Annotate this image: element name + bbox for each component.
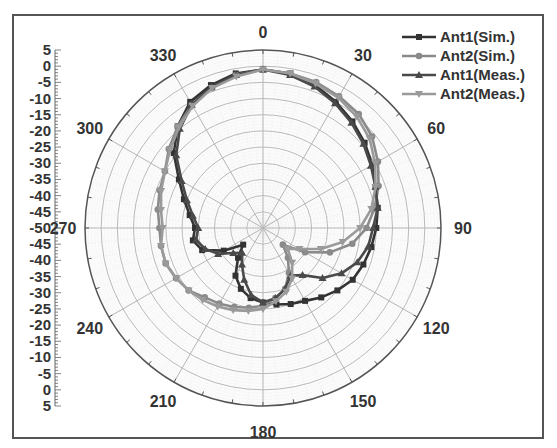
radial-tick-label: -35 xyxy=(29,268,51,285)
radial-tick-label: -35 xyxy=(29,170,51,187)
legend-item: Ant1(Meas.) xyxy=(402,66,525,83)
radial-tick-label: -40 xyxy=(29,187,51,204)
radial-tick-label: 0 xyxy=(43,381,51,398)
radial-tick-label: 5 xyxy=(43,397,51,414)
angle-label: 120 xyxy=(423,320,450,337)
radial-tick-label: -50 xyxy=(29,219,51,236)
polar-grid xyxy=(85,50,441,406)
angle-label: 0 xyxy=(259,24,268,41)
radial-tick-label: -15 xyxy=(29,106,51,123)
polar-chart: 50-5-10-15-20-25-30-35-40-45-50-45-40-35… xyxy=(0,0,557,448)
radial-tick-label: -30 xyxy=(29,284,51,301)
angle-label: 90 xyxy=(454,220,472,237)
radial-tick-label: -20 xyxy=(29,316,51,333)
angle-label: 30 xyxy=(354,47,372,64)
radial-tick-label: -5 xyxy=(38,365,51,382)
angle-label: 330 xyxy=(150,47,177,64)
angle-label: 300 xyxy=(76,120,103,137)
angle-label: 240 xyxy=(76,320,103,337)
radial-tick-label: 5 xyxy=(43,41,51,58)
legend: Ant1(Sim.)Ant2(Sim.)Ant1(Meas.)Ant2(Meas… xyxy=(402,28,525,102)
radial-tick-label: -25 xyxy=(29,138,51,155)
angle-label: 180 xyxy=(250,424,277,441)
legend-label: Ant1(Sim.) xyxy=(440,28,515,45)
angle-label: 60 xyxy=(427,120,445,137)
legend-item: Ant2(Meas.) xyxy=(402,85,525,102)
legend-label: Ant1(Meas.) xyxy=(440,66,525,83)
legend-item: Ant2(Sim.) xyxy=(402,47,515,64)
legend-item: Ant1(Sim.) xyxy=(402,28,515,45)
angle-label: 270 xyxy=(50,220,77,237)
radial-tick-label: -5 xyxy=(38,73,51,90)
legend-label: Ant2(Sim.) xyxy=(440,47,515,64)
radial-tick-label: -10 xyxy=(29,348,51,365)
radial-tick-label: -45 xyxy=(29,203,51,220)
radial-tick-label: 0 xyxy=(43,57,51,74)
radial-tick-label: -45 xyxy=(29,235,51,252)
angle-label: 210 xyxy=(150,393,177,410)
radial-tick-label: -15 xyxy=(29,332,51,349)
radial-tick-label: -20 xyxy=(29,122,51,139)
radial-tick-label: -25 xyxy=(29,300,51,317)
radial-tick-label: -10 xyxy=(29,90,51,107)
radial-tick-label: -40 xyxy=(29,251,51,268)
radial-tick-label: -30 xyxy=(29,154,51,171)
angle-label: 150 xyxy=(350,393,377,410)
legend-label: Ant2(Meas.) xyxy=(440,85,525,102)
